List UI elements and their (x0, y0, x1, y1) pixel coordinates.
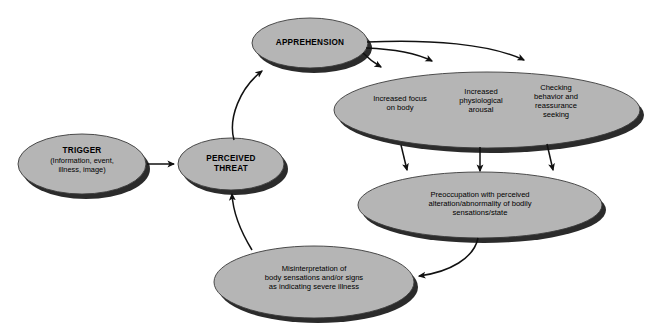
node-misinterpretation[interactable] (214, 246, 414, 318)
edge-misinterpretation-to-threat (232, 194, 252, 250)
node-body-layer (18, 18, 640, 318)
node-trigger[interactable] (18, 134, 146, 194)
node-responses[interactable] (334, 72, 640, 148)
edge-apprehension-to-focus (363, 53, 381, 67)
edge-preoccupation-to-misinterpretation (419, 238, 478, 276)
diagram-canvas: TRIGGER (Information, event, illness, im… (0, 0, 649, 329)
edge-apprehension-to-arousal (366, 48, 432, 61)
node-preoccupation[interactable] (358, 172, 602, 238)
edge-focus-to-preoccupation (401, 145, 407, 170)
diagram-svg (0, 0, 649, 329)
node-apprehension[interactable] (252, 18, 368, 68)
edge-threat-to-apprehension (232, 71, 262, 140)
node-perceived-threat[interactable] (178, 138, 284, 190)
